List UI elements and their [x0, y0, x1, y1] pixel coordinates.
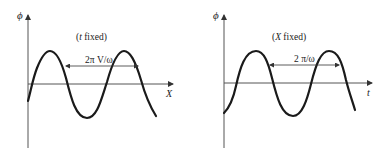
- y-axis-label: ϕ: [17, 9, 23, 21]
- y-axis-label: ϕ: [213, 9, 219, 21]
- condition-label: (t fixed): [76, 32, 107, 43]
- left-panel: ϕ X (t fixed) 2π V/ω: [17, 9, 173, 148]
- period-label: 2π V/ω: [85, 55, 113, 65]
- x-axis-label: t: [367, 87, 370, 98]
- x-axis-label: X: [165, 88, 173, 99]
- right-panel: ϕ t (X fixed) 2 π/ω: [213, 9, 372, 148]
- wave-diagram: ϕ X (t fixed) 2π V/ω ϕ t (X fixed) 2 π/ω: [0, 0, 378, 160]
- period-label: 2 π/ω: [294, 54, 315, 64]
- condition-label: (X fixed): [272, 32, 306, 43]
